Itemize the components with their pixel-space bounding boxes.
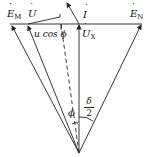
en-phasor [79,25,141,153]
phasor-diagram [0,0,152,157]
delta-numerator: δ [84,97,94,108]
i-label: I [83,10,87,20]
em-label: EM [7,9,21,21]
dashed-projection-line [61,24,79,153]
u-phasor [28,26,79,153]
u-cos-phi-label: u cos ϕ [34,30,67,39]
delta-denominator: 2 [84,108,94,118]
i-phasor [67,3,79,24]
delta-half-label: δ 2 [84,97,94,118]
ux-label: UX [82,29,95,41]
em-phasor [12,26,79,153]
u-label: U [28,9,36,19]
en-label: EN [130,9,143,21]
phi-label: ϕ [68,108,75,118]
